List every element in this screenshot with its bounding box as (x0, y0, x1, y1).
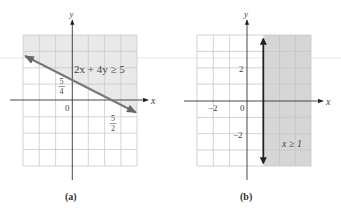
x-axis-label-a: x (150, 95, 156, 106)
inequality-label-a: 2x + 4y ≥ 5 (74, 63, 125, 75)
origin-label-b: 0 (240, 103, 245, 113)
x-axis-label-b: x (325, 96, 331, 107)
tick-label-y-2: 2 (239, 64, 244, 74)
y-intercept-fraction: 5 4 (59, 77, 66, 96)
caption-a: (a) (65, 191, 77, 203)
y-axis-label-b: y (243, 9, 248, 19)
inequality-label-b: x ≥ 1 (281, 138, 302, 149)
svg-text:2: 2 (111, 124, 115, 133)
svg-text:4: 4 (60, 87, 64, 96)
panel-b: x y 0 −2 2 −2 x ≥ 1 (b) (184, 9, 331, 203)
tick-label-y-neg2: −2 (233, 130, 243, 140)
origin-label-a: 0 (65, 103, 70, 113)
svg-text:5: 5 (60, 77, 64, 86)
y-axis-label-a: y (69, 9, 74, 19)
svg-text:5: 5 (111, 114, 115, 123)
figure: x y 2x + 4y ≥ 5 0 5 4 5 2 (a) (0, 0, 341, 214)
tick-label-x-neg2: −2 (208, 103, 218, 113)
panel-a: x y 2x + 4y ≥ 5 0 5 4 5 2 (a) (10, 9, 156, 203)
caption-b: (b) (240, 191, 252, 203)
